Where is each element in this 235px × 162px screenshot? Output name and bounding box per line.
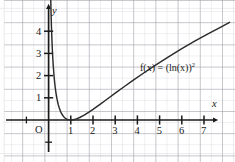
grid-major <box>4 0 235 162</box>
function-plot <box>0 0 235 162</box>
graph-figure: 4 3 2 1 1 2 3 4 5 6 7 O x y f(x) = (ln(x… <box>0 0 235 162</box>
